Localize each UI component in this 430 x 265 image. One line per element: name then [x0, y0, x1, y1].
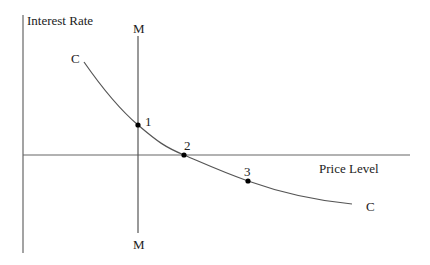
c-start-label: C	[71, 51, 80, 66]
m-top-label: M	[133, 21, 145, 36]
point-2-marker	[181, 152, 186, 157]
m-bottom-label: M	[133, 237, 145, 252]
c-end-label: C	[366, 199, 375, 214]
point-1-marker	[135, 122, 140, 127]
x-axis-label: Price Level	[319, 161, 379, 176]
y-axis-label: Interest Rate	[27, 13, 93, 28]
c-curve	[84, 62, 352, 204]
point-3-marker	[245, 178, 250, 183]
diagram-canvas: Interest Rate Price Level M M C C 1 2 3	[0, 0, 430, 265]
point-3-label: 3	[244, 164, 251, 179]
point-2-label: 2	[184, 138, 191, 153]
point-1-label: 1	[145, 114, 152, 129]
